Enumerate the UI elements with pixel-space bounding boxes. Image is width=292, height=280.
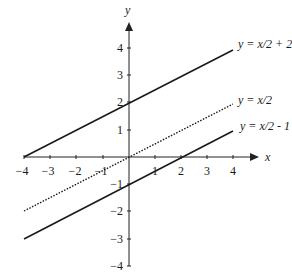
x-tick-label: −4	[16, 164, 29, 178]
y-tick-label: −3	[110, 232, 123, 246]
y-tick-label: 4	[117, 41, 123, 55]
y-tick-label: −2	[110, 204, 123, 218]
axes	[24, 22, 259, 266]
line2-label: y = x/2	[237, 93, 272, 107]
x-tick-label: 4	[230, 164, 236, 178]
line-labels: y = x/2 + 2 y = x/2 y = x/2 - 1	[237, 37, 292, 133]
x-tick-labels: −4 −3 −2 −1 1 2 3 4	[16, 164, 236, 178]
line3-label: y = x/2 - 1	[239, 119, 290, 133]
y-tick-label: −4	[110, 259, 123, 273]
x-axis-label: x	[264, 150, 271, 164]
y-axis-arrow-icon	[125, 22, 133, 31]
x-tick-label: 3	[204, 164, 210, 178]
x-tick-label: −1	[95, 164, 108, 178]
x-tick-label: −3	[42, 164, 55, 178]
y-tick-label: 1	[117, 123, 123, 137]
x-tick-label: 2	[178, 164, 184, 178]
y-axis-label: y	[124, 3, 131, 17]
x-axis-arrow-icon	[250, 153, 259, 161]
y-tick-label: 3	[117, 68, 123, 82]
line1-label: y = x/2 + 2	[237, 37, 292, 51]
line-diagram: −4 −3 −2 −1 1 2 3 4 4 3 2 1 −1 −2 −3 −4 …	[0, 0, 292, 280]
x-tick-label: −2	[69, 164, 82, 178]
